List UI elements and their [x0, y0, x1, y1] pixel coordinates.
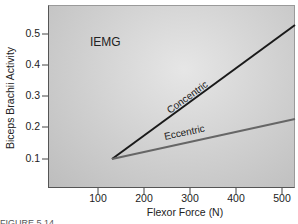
concentric-label: Concentric: [165, 79, 210, 116]
ytick-label: 0.5: [14, 27, 40, 39]
xtick-label: 500: [267, 192, 297, 204]
panel-label: IEMG: [90, 35, 121, 49]
x-axis-label: Flexor Force (N): [110, 206, 260, 218]
xtick-label: 300: [175, 192, 205, 204]
figure-caption: FIGURE 5.14 ...: [0, 218, 298, 224]
xtick-label: 200: [129, 192, 159, 204]
ytick-label: 0.1: [14, 152, 40, 164]
chart-lines: Concentric Eccentric: [0, 0, 298, 224]
xtick-label: 400: [221, 192, 251, 204]
ytick-label: 0.3: [14, 89, 40, 101]
y-axis-label: Biceps Brachii Activity: [4, 38, 16, 158]
xtick-label: 100: [83, 192, 113, 204]
ytick-label: 0.2: [14, 120, 40, 132]
ytick-label: 0.4: [14, 58, 40, 70]
